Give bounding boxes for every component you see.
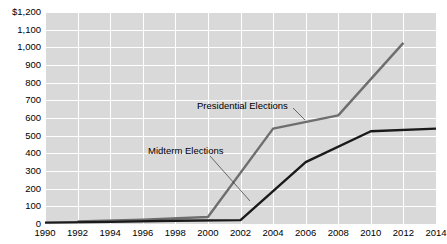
x-axis-tick-label: 2010 xyxy=(360,228,381,238)
y-axis-tick-label: 100 xyxy=(0,201,41,210)
gridlines xyxy=(45,12,436,224)
gridline-vertical xyxy=(45,12,46,224)
x-axis-tick-label: 1990 xyxy=(34,228,55,238)
x-axis-tick-label: 1992 xyxy=(67,228,88,238)
plot-area xyxy=(45,12,436,224)
x-axis-tick-label: 2008 xyxy=(328,228,349,238)
x-axis-tick-label: 2014 xyxy=(425,228,446,238)
x-axis-tick-label: 1998 xyxy=(165,228,186,238)
y-axis: $1,2001,1001,000900800700600500400300200… xyxy=(0,0,41,244)
gridline-vertical xyxy=(143,12,144,224)
series-label-midterm: Midterm Elections xyxy=(148,145,224,156)
y-axis-tick-label: 500 xyxy=(0,131,41,140)
x-axis-tick-label: 2012 xyxy=(393,228,414,238)
y-axis-tick-label: 700 xyxy=(0,95,41,104)
y-axis-tick-label: 600 xyxy=(0,113,41,122)
y-axis-tick-label: 1,100 xyxy=(0,25,41,34)
gridline-vertical xyxy=(78,12,79,224)
gridline-horizontal xyxy=(45,224,436,225)
y-axis-tick-label: 300 xyxy=(0,166,41,175)
y-axis-tick-label: 1,000 xyxy=(0,42,41,51)
gridline-vertical xyxy=(306,12,307,224)
gridline-vertical xyxy=(436,12,437,224)
y-axis-tick-label: 200 xyxy=(0,184,41,193)
x-axis-tick-label: 2002 xyxy=(230,228,251,238)
gridline-vertical xyxy=(338,12,339,224)
gridline-vertical xyxy=(110,12,111,224)
y-axis-tick-label: $1,200 xyxy=(0,7,41,16)
x-axis-tick-label: 1994 xyxy=(100,228,121,238)
gridline-vertical xyxy=(403,12,404,224)
x-axis-tick-label: 1996 xyxy=(132,228,153,238)
gridline-vertical xyxy=(371,12,372,224)
x-axis-tick-label: 2004 xyxy=(263,228,284,238)
y-axis-tick-label: 400 xyxy=(0,148,41,157)
y-axis-tick-label: 900 xyxy=(0,60,41,69)
gridline-vertical xyxy=(208,12,209,224)
series-label-presidential: Presidential Elections xyxy=(197,100,288,111)
y-axis-tick-label: 800 xyxy=(0,78,41,87)
gridline-vertical xyxy=(175,12,176,224)
x-axis-tick-label: 2006 xyxy=(295,228,316,238)
gridline-vertical xyxy=(273,12,274,224)
x-axis: 1990199219941996199820002002200420062008… xyxy=(0,228,447,244)
x-axis-tick-label: 2000 xyxy=(197,228,218,238)
line-chart: $1,2001,1001,000900800700600500400300200… xyxy=(0,0,447,244)
gridline-vertical xyxy=(241,12,242,224)
